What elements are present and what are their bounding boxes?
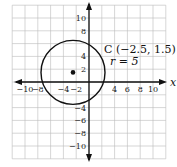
y-axis-up-arrow-icon xyxy=(86,2,92,10)
svg-text:−8: −8 xyxy=(32,85,44,94)
coordinate-plane: −10−8−4−24681010842−4−6−8−10 x C (−2.5, … xyxy=(0,0,177,167)
svg-text:10: 10 xyxy=(148,85,158,94)
svg-text:8: 8 xyxy=(81,27,86,36)
center-point xyxy=(71,70,76,75)
svg-text:−4: −4 xyxy=(58,85,70,94)
svg-text:2: 2 xyxy=(81,65,86,74)
radius-annotation: r = 5 xyxy=(110,55,138,68)
svg-text:−8: −8 xyxy=(74,129,86,138)
x-axis-label: x xyxy=(170,76,177,89)
svg-text:4: 4 xyxy=(81,52,86,61)
svg-text:8: 8 xyxy=(138,85,143,94)
svg-text:6: 6 xyxy=(125,85,130,94)
svg-text:4: 4 xyxy=(112,85,117,94)
svg-text:−6: −6 xyxy=(74,116,86,125)
svg-text:10: 10 xyxy=(76,14,86,23)
svg-text:−10: −10 xyxy=(69,142,86,151)
svg-text:−2: −2 xyxy=(70,85,82,94)
y-axis-down-arrow-icon xyxy=(86,154,92,162)
svg-text:−4: −4 xyxy=(74,104,86,113)
